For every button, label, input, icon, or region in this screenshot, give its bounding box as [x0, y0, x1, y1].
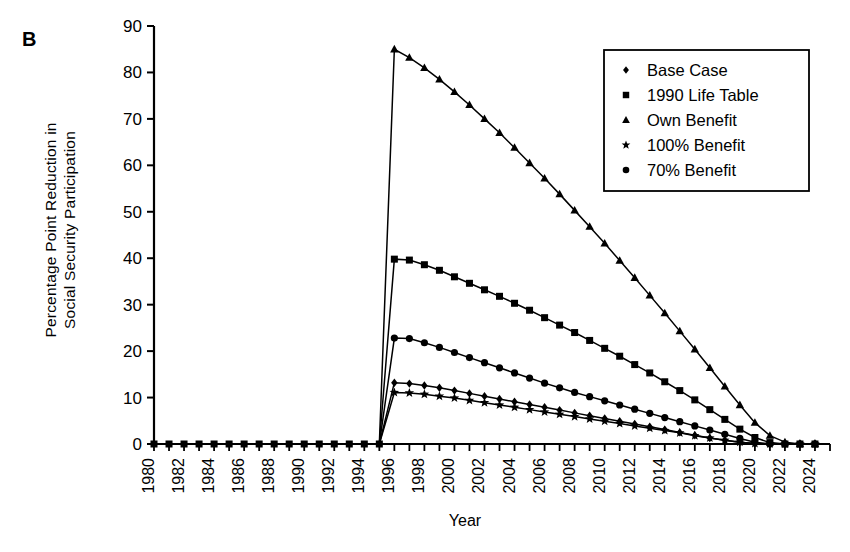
- x-axis-tick-group: 1980198219841986198819901992199419961998…: [140, 444, 830, 494]
- circle-marker: [766, 440, 773, 447]
- circle-marker: [571, 389, 578, 396]
- square-marker: [406, 257, 413, 264]
- x-tick-label: 2012: [621, 458, 638, 494]
- x-tick-label: 2006: [531, 458, 548, 494]
- square-marker: [391, 256, 398, 263]
- triangle-marker: [390, 45, 398, 53]
- circle-marker: [496, 364, 503, 371]
- x-tick-label: 1996: [380, 458, 397, 494]
- legend-label: 1990 Life Table: [647, 86, 759, 104]
- square-marker: [436, 267, 443, 274]
- y-tick-label: 40: [123, 249, 142, 268]
- x-tick-label: 2016: [681, 458, 698, 494]
- series-base-case: [154, 378, 818, 448]
- x-tick-label: 2000: [440, 458, 457, 494]
- series-line: [154, 338, 815, 444]
- circle-marker: [451, 349, 458, 356]
- circle-marker: [623, 167, 630, 174]
- legend-label: Base Case: [647, 61, 728, 79]
- x-tick-label: 1994: [350, 458, 367, 494]
- x-tick-label: 2008: [561, 458, 578, 494]
- circle-marker: [676, 418, 683, 425]
- circle-marker: [556, 384, 563, 391]
- x-tick-label: 2024: [801, 458, 818, 494]
- circle-marker: [646, 410, 653, 417]
- square-marker: [631, 361, 638, 368]
- square-marker: [691, 396, 698, 403]
- square-marker: [481, 286, 488, 293]
- legend-label: 100% Benefit: [647, 136, 746, 154]
- x-tick-label: 1984: [200, 458, 217, 494]
- square-marker: [601, 345, 608, 352]
- circle-marker: [781, 440, 788, 447]
- triangle-marker: [420, 63, 428, 71]
- y-tick-label: 30: [123, 296, 142, 315]
- circle-marker: [586, 393, 593, 400]
- circle-marker: [661, 414, 668, 421]
- y-tick-label: 0: [133, 435, 142, 454]
- diamond-marker: [421, 381, 427, 389]
- y-axis-tick-group: 0102030405060708090: [123, 17, 154, 454]
- x-tick-label: 2004: [501, 458, 518, 494]
- y-tick-label: 50: [123, 203, 142, 222]
- y-tick-label: 60: [123, 156, 142, 175]
- circle-marker: [421, 339, 428, 346]
- x-tick-label: 1990: [290, 458, 307, 494]
- series-1990-life-table: [151, 256, 819, 448]
- x-tick-label: 1988: [260, 458, 277, 494]
- square-marker: [526, 307, 533, 314]
- x-tick-label: 1998: [410, 458, 427, 494]
- x-tick-label: 1992: [320, 458, 337, 494]
- circle-marker: [541, 380, 548, 387]
- square-marker: [623, 92, 629, 98]
- x-tick-label: 2014: [651, 458, 668, 494]
- y-axis-title-line1: Percentage Point Reduction in: [41, 122, 60, 337]
- x-tick-label: 1986: [230, 458, 247, 494]
- triangle-marker: [405, 53, 413, 61]
- circle-marker: [721, 431, 728, 438]
- square-marker: [661, 378, 668, 385]
- star-marker: [405, 388, 415, 397]
- legend-label: Own Benefit: [647, 111, 737, 129]
- circle-marker: [736, 435, 743, 442]
- y-tick-label: 80: [123, 63, 142, 82]
- y-axis-title: Percentage Point Reduction in Social Sec…: [0, 0, 120, 460]
- x-tick-label: 2018: [711, 458, 728, 494]
- x-tick-label: 1982: [170, 458, 187, 494]
- star-marker: [525, 405, 535, 414]
- circle-marker: [436, 344, 443, 351]
- x-tick-label: 2022: [771, 458, 788, 494]
- square-marker: [466, 280, 473, 287]
- square-marker: [496, 293, 503, 300]
- star-marker: [480, 398, 490, 407]
- square-marker: [676, 387, 683, 394]
- y-axis-title-line2: Social Security Participation: [60, 122, 79, 337]
- circle-marker: [706, 426, 713, 433]
- circle-marker: [466, 354, 473, 361]
- x-axis-title: Year: [0, 512, 850, 530]
- y-tick-label: 20: [123, 342, 142, 361]
- square-marker: [571, 329, 578, 336]
- y-tick-label: 90: [123, 17, 142, 36]
- chart-canvas: 0102030405060708090 19801982198419861988…: [0, 0, 850, 552]
- legend: Base Case1990 Life TableOwn Benefit100% …: [604, 50, 809, 191]
- diamond-marker: [406, 379, 412, 387]
- star-marker: [510, 402, 520, 411]
- circle-marker: [481, 359, 488, 366]
- series-70-benefit: [154, 335, 819, 448]
- circle-marker: [601, 397, 608, 404]
- x-tick-label: 2020: [741, 458, 758, 494]
- star-marker: [465, 395, 475, 404]
- square-marker: [736, 426, 743, 433]
- circle-marker: [691, 422, 698, 429]
- figure-panel-b: B Percentage Point Reduction in Social S…: [0, 0, 850, 552]
- star-marker: [435, 391, 445, 400]
- square-marker: [511, 300, 518, 307]
- square-marker: [706, 406, 713, 413]
- circle-marker: [751, 439, 758, 446]
- square-marker: [541, 314, 548, 321]
- square-marker: [421, 261, 428, 268]
- legend-label: 70% Benefit: [647, 161, 736, 179]
- square-marker: [556, 322, 563, 329]
- circle-marker: [406, 335, 413, 342]
